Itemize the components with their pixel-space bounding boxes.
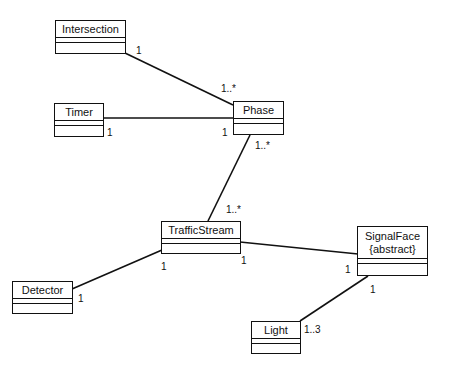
class-name: Timer [55, 104, 103, 121]
multiplicity-phase-end-trafficstream: 1..* [255, 141, 270, 151]
multiplicity-signalface-end-light: 1 [370, 285, 376, 295]
class-intersection[interactable]: Intersection [55, 20, 126, 54]
class-name: Detector [13, 282, 72, 299]
association-signalface-light [300, 276, 368, 321]
class-name: Light [252, 322, 300, 339]
operations-compartment [234, 124, 283, 132]
operations-compartment [13, 304, 72, 312]
multiplicity-intersection-end: 1 [136, 46, 142, 56]
multiplicity-timer-end: 1 [107, 128, 113, 138]
multiplicity-detector-end: 1 [78, 294, 84, 304]
operations-compartment [55, 126, 103, 134]
operations-compartment [56, 43, 125, 51]
class-trafficstream[interactable]: TrafficStream [161, 221, 241, 254]
operations-compartment [162, 244, 240, 252]
multiplicity-light-end: 1..3 [304, 325, 321, 335]
multiplicity-signalface-end-trafficstream: 1 [345, 265, 351, 275]
multiplicity-trafficstream-end-signalface: 1 [241, 256, 247, 266]
association-lines [0, 0, 450, 373]
class-detector[interactable]: Detector [12, 281, 73, 314]
class-signalface[interactable]: SignalFace {abstract} [357, 226, 428, 276]
class-name: SignalFace [360, 230, 425, 243]
operations-compartment [358, 264, 427, 272]
class-name: Intersection [56, 21, 125, 38]
association-detector-trafficstream [72, 250, 162, 289]
operations-compartment [252, 344, 300, 352]
multiplicity-trafficstream-end-phase: 1..* [226, 205, 241, 215]
class-timer[interactable]: Timer [54, 103, 104, 137]
class-stereotype: {abstract} [360, 243, 425, 256]
multiplicity-phase-end-timer: 1 [222, 128, 228, 138]
association-intersection-phase [125, 53, 233, 105]
class-name: TrafficStream [162, 222, 240, 239]
class-name-block: SignalFace {abstract} [358, 227, 427, 259]
class-phase[interactable]: Phase [233, 101, 284, 135]
multiplicity-trafficstream-end-detector: 1 [161, 262, 167, 272]
association-trafficstream-signalface [240, 242, 358, 254]
class-name: Phase [234, 102, 283, 119]
class-light[interactable]: Light [251, 321, 301, 354]
multiplicity-phase-end-intersection: 1..* [221, 84, 236, 94]
